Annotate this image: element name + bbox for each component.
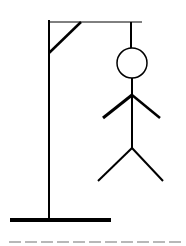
figure-right-arm [132,95,160,118]
word-letter-slot [41,241,53,243]
word-letter-slot [169,241,181,243]
hangman-drawing [0,0,186,246]
word-letter-slot [9,241,21,243]
word-letter-slot [89,241,101,243]
word-letter-slots [9,240,181,244]
figure-left-arm [103,95,132,118]
word-letter-slot [73,241,85,243]
gallows-brace [49,22,81,53]
gallows [10,20,142,220]
figure-left-leg [98,148,132,181]
word-letter-slot [153,241,165,243]
word-letter-slot [57,241,69,243]
figure-head [117,48,147,78]
word-letter-slot [137,241,149,243]
word-letter-slot [105,241,117,243]
word-letter-slot [25,241,37,243]
word-letter-slot [121,241,133,243]
figure-right-leg [132,148,163,181]
hanged-figure [98,48,163,181]
